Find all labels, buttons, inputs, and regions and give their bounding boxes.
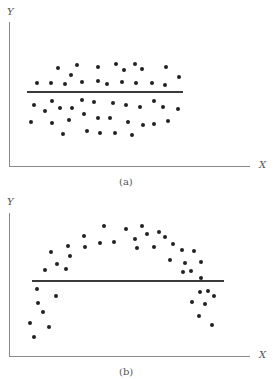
data-point	[122, 68, 126, 72]
data-point	[113, 131, 117, 135]
data-point	[164, 65, 168, 69]
data-point	[166, 119, 170, 123]
data-point	[82, 112, 86, 116]
data-point	[203, 302, 207, 306]
data-point	[210, 323, 214, 327]
data-point	[92, 100, 96, 104]
data-point	[120, 80, 124, 84]
panel-b-x-label: X	[259, 349, 266, 360]
data-point	[124, 103, 128, 107]
panel-a-reference-line	[27, 91, 183, 93]
data-point	[85, 129, 89, 133]
panel-b-caption: (b)	[119, 366, 133, 377]
data-point	[32, 335, 36, 339]
data-point	[61, 132, 65, 136]
data-point	[157, 230, 161, 234]
data-point	[70, 106, 74, 110]
data-point	[145, 232, 149, 236]
panel-b-y-axis	[9, 213, 10, 357]
data-point	[152, 99, 156, 103]
data-point	[35, 287, 39, 291]
data-point	[80, 80, 84, 84]
panel-a-y-label: Y	[7, 6, 14, 17]
data-point	[36, 301, 40, 305]
data-point	[161, 105, 165, 109]
data-point	[64, 267, 68, 271]
data-point	[112, 240, 116, 244]
data-point	[102, 224, 106, 228]
data-point	[82, 234, 86, 238]
data-point	[197, 314, 201, 318]
data-point	[152, 245, 156, 249]
data-point	[56, 66, 60, 70]
data-point	[134, 81, 138, 85]
data-point	[190, 300, 194, 304]
data-point	[96, 65, 100, 69]
data-point	[50, 99, 54, 103]
data-point	[133, 62, 137, 66]
panel-b-x-axis	[9, 356, 250, 357]
data-point	[163, 235, 167, 239]
data-point	[180, 248, 184, 252]
data-point	[32, 103, 36, 107]
data-point	[98, 131, 102, 135]
data-point	[176, 107, 180, 111]
data-point	[35, 81, 39, 85]
data-point	[199, 276, 203, 280]
data-point	[105, 82, 109, 86]
data-point	[199, 260, 203, 264]
data-point	[141, 123, 145, 127]
data-point	[47, 325, 51, 329]
panel-b-reference-line	[32, 280, 224, 282]
data-point	[108, 116, 112, 120]
data-point	[67, 118, 71, 122]
data-point	[29, 120, 33, 124]
data-point	[140, 224, 144, 228]
panel-b-y-label: Y	[7, 196, 14, 207]
data-point	[49, 81, 53, 85]
data-point	[126, 120, 130, 124]
data-point	[54, 294, 58, 298]
data-point	[69, 73, 73, 77]
data-point	[66, 244, 70, 248]
data-point	[133, 237, 137, 241]
data-point	[198, 290, 202, 294]
panel-a-x-label: X	[259, 159, 266, 170]
data-point	[83, 245, 87, 249]
data-point	[28, 321, 32, 325]
data-point	[168, 258, 172, 262]
data-point	[98, 241, 102, 245]
data-point	[130, 133, 134, 137]
data-point	[63, 82, 67, 86]
data-point	[41, 310, 45, 314]
panel-a-caption: (a)	[119, 176, 133, 187]
data-point	[50, 121, 54, 125]
panel-a-x-axis	[9, 166, 250, 167]
data-point	[135, 246, 139, 250]
data-point	[138, 105, 142, 109]
data-point	[150, 81, 154, 85]
data-point	[43, 109, 47, 113]
data-point	[58, 106, 62, 110]
data-point	[68, 254, 72, 258]
data-point	[212, 294, 216, 298]
data-point	[80, 98, 84, 102]
data-point	[114, 62, 118, 66]
data-point	[96, 79, 100, 83]
data-point	[140, 67, 144, 71]
data-point	[43, 268, 47, 272]
data-point	[192, 249, 196, 253]
data-point	[55, 262, 59, 266]
data-point	[206, 289, 210, 293]
data-point	[111, 101, 115, 105]
data-point	[183, 261, 187, 265]
data-point	[96, 116, 100, 120]
data-point	[171, 242, 175, 246]
data-point	[49, 250, 53, 254]
data-point	[189, 269, 193, 273]
data-point	[152, 122, 156, 126]
data-point	[181, 270, 185, 274]
data-point	[124, 227, 128, 231]
panel-a-y-axis	[9, 22, 10, 167]
data-point	[163, 83, 167, 87]
